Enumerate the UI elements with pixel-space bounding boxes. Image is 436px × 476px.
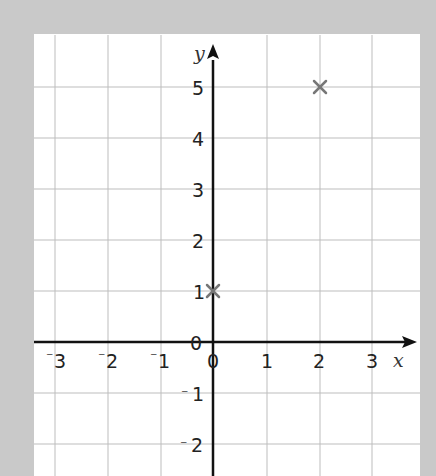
y-tick-2: 2 bbox=[192, 230, 204, 252]
y-tick-5: 5 bbox=[192, 77, 204, 99]
x-tick-origin: 0 bbox=[207, 350, 219, 372]
x-tick-1: 1 bbox=[261, 350, 273, 372]
x-tick-neg2-minus: ⁻ bbox=[98, 349, 105, 365]
x-tick-neg1: 1 bbox=[158, 350, 170, 372]
x-axis-label: x bbox=[393, 349, 404, 371]
y-tick-1: 1 bbox=[193, 281, 205, 303]
y-axis-label: y bbox=[193, 42, 205, 64]
y-tick-origin: 0 bbox=[190, 332, 202, 354]
x-tick-neg2: 2 bbox=[106, 350, 118, 372]
x-tick-3: 3 bbox=[366, 350, 378, 372]
y-tick-4: 4 bbox=[192, 128, 204, 150]
y-axis-arrow-icon bbox=[207, 44, 219, 59]
x-tick-2: 2 bbox=[313, 350, 325, 372]
y-tick-neg1: 1 bbox=[192, 383, 204, 405]
y-tick-neg1-minus: ⁻ bbox=[181, 386, 188, 402]
x-tick-neg1-minus: ⁻ bbox=[150, 349, 157, 365]
y-tick-neg2: 2 bbox=[191, 434, 203, 456]
y-tick-3: 3 bbox=[192, 179, 204, 201]
grid-lines bbox=[34, 35, 420, 476]
x-tick-neg3: 3 bbox=[54, 350, 66, 372]
x-tick-neg3-minus: ⁻ bbox=[46, 349, 53, 365]
y-tick-neg2-minus: ⁻ bbox=[180, 437, 187, 453]
coordinate-plane: y x 5 4 3 2 1 0 ⁻ 1 ⁻ 2 ⁻ 3 ⁻ 2 ⁻ 1 0 1 … bbox=[0, 0, 436, 476]
